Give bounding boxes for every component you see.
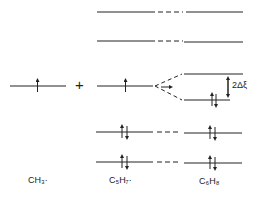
level-occupied-2 [96, 156, 242, 169]
mo-diagram [0, 0, 259, 200]
label-ch3: CH₃· [28, 175, 48, 185]
level-c5h7-lumo1 [97, 41, 243, 42]
label-c6h8: C₆H₈ [199, 176, 219, 186]
level-occupied-1 [96, 126, 242, 139]
label-c5h7: C₅H₇· [109, 175, 132, 185]
plus-sign: + [75, 76, 84, 93]
splitting-label: 2Δξ [232, 80, 247, 90]
